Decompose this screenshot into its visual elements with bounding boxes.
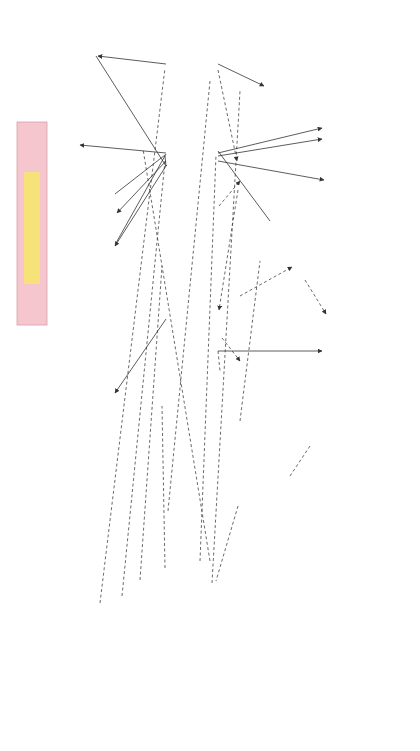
research-journey-diagram bbox=[0, 0, 420, 751]
solid-connectors bbox=[80, 56, 324, 611]
title-band bbox=[17, 122, 47, 325]
dashed-connectors bbox=[100, 68, 310, 603]
